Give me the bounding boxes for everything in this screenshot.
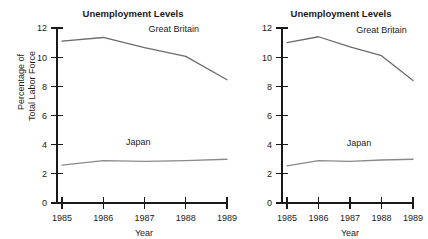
left-y-tick-label: 0: [42, 198, 47, 208]
right-x-tick-labels: 1985 1986 1987 1988 1989: [277, 213, 423, 223]
japan-line: [287, 159, 413, 166]
right-y-tick-label: 4: [267, 140, 272, 150]
left-y-tick-label: 4: [42, 140, 47, 150]
japan-series-label: Japan: [126, 137, 151, 147]
great-britain-series-label: Great Britain: [149, 24, 200, 34]
great-britain-line: [62, 37, 227, 79]
chart-panel-right: Unemployment Levels 0 2 4 6 8 10 12: [238, 0, 428, 239]
left-y-tick-label: 6: [42, 111, 47, 121]
right-x-tick-label: 1986: [308, 213, 328, 223]
left-x-axis-label: Year: [135, 228, 153, 238]
left-x-tick-label: 1989: [217, 213, 237, 223]
right-y-tick-label: 6: [267, 111, 272, 121]
right-chart-svg: Unemployment Levels 0 2 4 6 8 10 12: [238, 0, 428, 239]
chart-panel-left: Unemployment Levels Percentage of Total …: [0, 0, 238, 239]
left-y-tick-label: 10: [37, 53, 47, 63]
great-britain-series-label: Great Britain: [356, 25, 407, 35]
left-x-tick-labels: 1985 1986 1987 1988 1989: [52, 213, 237, 223]
right-y-tick-labels: 0 2 4 6 8 10 12: [262, 23, 272, 208]
unemployment-levels-figure: Unemployment Levels Percentage of Total …: [0, 0, 428, 239]
left-chart-svg: Unemployment Levels Percentage of Total …: [0, 0, 238, 239]
left-x-tick-label: 1986: [93, 213, 113, 223]
left-x-tick-label: 1985: [52, 213, 72, 223]
left-y-tick-label: 8: [42, 82, 47, 92]
great-britain-line: [287, 37, 413, 81]
right-x-tick-label: 1987: [340, 213, 360, 223]
right-y-tick-label: 2: [267, 169, 272, 179]
left-x-tick-label: 1987: [134, 213, 154, 223]
left-y-tick-label: 2: [42, 169, 47, 179]
right-y-tick-label: 8: [267, 82, 272, 92]
right-chart-title: Unemployment Levels: [291, 8, 392, 19]
right-y-tick-label: 12: [262, 23, 272, 33]
left-x-tick-label: 1988: [176, 213, 196, 223]
right-y-tick-label: 10: [262, 53, 272, 63]
left-chart-title: Unemployment Levels: [83, 8, 184, 19]
right-x-tick-label: 1985: [277, 213, 297, 223]
left-y-axis-label-line1: Percentage of: [16, 53, 26, 110]
right-x-tick-label: 1989: [403, 213, 423, 223]
left-y-axis-label-line2: Total Labor Force: [27, 51, 37, 121]
left-y-tick-labels: 0 2 4 6 8 10 12: [37, 23, 47, 208]
right-y-tick-label: 0: [267, 198, 272, 208]
japan-line: [62, 159, 227, 165]
left-y-tick-label: 12: [37, 23, 47, 33]
right-x-axis-label: Year: [341, 228, 359, 238]
right-x-tick-label: 1988: [371, 213, 391, 223]
japan-series-label: Japan: [347, 138, 372, 148]
